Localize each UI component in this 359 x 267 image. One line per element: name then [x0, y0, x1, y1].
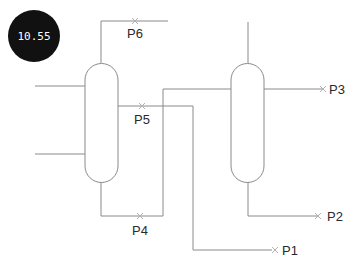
stream-label-p2: P2: [327, 209, 343, 224]
valve-p1-icon: [272, 247, 278, 253]
vessel-2[interactable]: [231, 64, 264, 183]
stream-label-p3: P3: [329, 82, 345, 97]
stream-label-p6: P6: [127, 26, 143, 41]
stream-label-p4: P4: [132, 223, 148, 238]
stream-p4-line[interactable]: [101, 89, 231, 216]
process-diagram: P6 P5 P1 P4 P3 P2: [0, 0, 359, 267]
stream-label-p1: P1: [282, 243, 298, 258]
stream-label-p5: P5: [134, 112, 150, 127]
vessel-1[interactable]: [85, 64, 118, 183]
stream-p2-line[interactable]: [248, 182, 317, 216]
